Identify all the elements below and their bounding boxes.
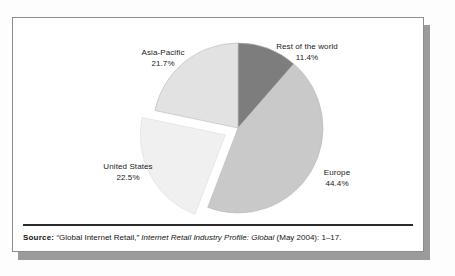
pie-label-united-states: United States 22.5%: [75, 162, 181, 183]
pie-chart: Rest of the world 11.4% Asia-Pacific 21.…: [13, 18, 425, 216]
pie-label-united-states-name: United States: [75, 162, 181, 173]
source-publication: Internet Retail Industry Profile: Global: [141, 233, 274, 242]
pie-label-rest-of-the-world-value: 11.4%: [247, 53, 367, 64]
pie-label-rest-of-the-world-name: Rest of the world: [247, 42, 367, 53]
pie-label-europe: Europe 44.4%: [297, 168, 377, 189]
source-citation-quoted: “Global Internet Retail,”: [56, 233, 139, 242]
pie-label-asia-pacific-value: 21.7%: [113, 59, 213, 70]
figure-frame: Rest of the world 11.4% Asia-Pacific 21.…: [12, 17, 424, 252]
pie-label-united-states-value: 22.5%: [75, 173, 181, 184]
source-divider: [23, 224, 413, 226]
source-label: Source:: [23, 233, 54, 242]
pie-label-asia-pacific: Asia-Pacific 21.7%: [113, 48, 213, 69]
pie-label-asia-pacific-name: Asia-Pacific: [113, 48, 213, 59]
pie-label-rest-of-the-world: Rest of the world 11.4%: [247, 42, 367, 63]
page-background: Rest of the world 11.4% Asia-Pacific 21.…: [0, 0, 455, 276]
pie-label-europe-value: 44.4%: [297, 179, 377, 190]
source-note: Source: “Global Internet Retail,” Intern…: [23, 232, 417, 244]
pie-label-europe-name: Europe: [297, 168, 377, 179]
source-date-pages: (May 2004): 1–17.: [277, 233, 342, 242]
